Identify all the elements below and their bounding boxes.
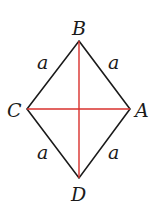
vertex-label-d: D — [70, 183, 86, 205]
side-label-top-left: a — [37, 51, 48, 73]
rhombus-diagram: B A C D a a a a — [0, 0, 162, 209]
side-label-bottom-right: a — [108, 141, 119, 163]
vertex-label-c: C — [7, 99, 22, 121]
side-label-top-right: a — [108, 51, 119, 73]
vertex-label-b: B — [71, 17, 86, 39]
side-label-bottom-left: a — [37, 141, 48, 163]
vertex-label-a: A — [133, 99, 149, 121]
